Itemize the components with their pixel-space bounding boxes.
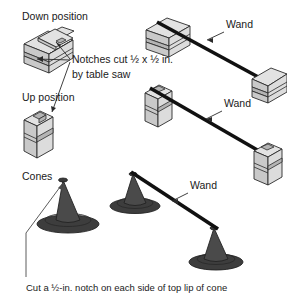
wand-label-top: Wand [226,18,253,30]
down-position-label: Down position [22,10,88,22]
cone-right [189,226,243,270]
wand-label-bottom: Wand [190,179,217,191]
up-position-label: Up position [22,91,75,103]
wand-label-middle: Wand [224,97,251,109]
cone-notch-caption: Cut a ½-in. notch on each side of top li… [26,282,227,293]
cones-label: Cones [22,170,52,182]
apparatus-diagram: Down position Notches cut [0,0,287,297]
wand-block-right-down [252,68,287,103]
notches-label-line1: Notches cut ½ x ½ in. [72,53,173,65]
cones-row: Wand [37,172,243,270]
up-position-block [24,111,53,158]
cone-middle [110,172,160,213]
down-position-block [24,27,74,73]
wand-block-right-up [254,143,282,185]
notches-label-line2: by table saw [72,68,131,80]
diagram-canvas: Down position Notches cut [0,0,287,297]
